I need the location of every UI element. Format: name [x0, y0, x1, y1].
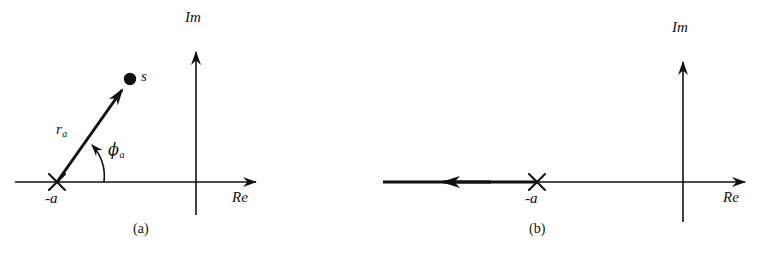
real-axis-label-a: Re [232, 190, 248, 205]
panel-b-caption: (b) [529, 222, 545, 236]
real-axis-label-b: Re [723, 190, 739, 205]
vector-angle-label-phia: ϕa [108, 142, 124, 160]
phi-glyph: ϕ [108, 140, 119, 159]
vector-magnitude-label-ra: ra [56, 122, 67, 139]
panel-a: Im Re -a ra ϕa s (a) [0, 0, 383, 261]
panel-a-caption: (a) [133, 222, 149, 236]
panel-b: Im Re -a (b) [383, 0, 765, 261]
root-locus-figure: Im Re -a ra ϕa s (a) [0, 0, 765, 261]
point-s-dot [124, 73, 136, 85]
point-s-label: s [141, 69, 147, 84]
pole-label-b: -a [525, 191, 538, 206]
pole-label-a: -a [45, 191, 58, 206]
angle-arc-phi-a [92, 145, 104, 182]
panel-b-drawing [383, 0, 765, 261]
imaginary-axis-label-a: Im [185, 10, 201, 25]
vector-angle-subscript: a [119, 149, 125, 160]
imaginary-axis-label-b: Im [672, 20, 688, 35]
vector-magnitude-subscript: a [62, 128, 68, 139]
